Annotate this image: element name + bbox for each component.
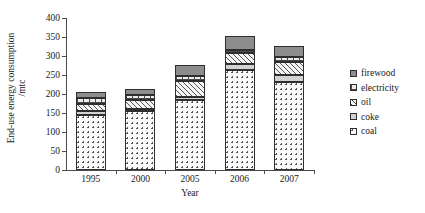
legend-swatch-firewood-icon xyxy=(350,70,357,77)
bar-segment-firewood[interactable] xyxy=(225,36,255,49)
y-tick-label: 150 xyxy=(46,108,60,118)
chart-figure: End-use energy consumption /mtc 05010015… xyxy=(0,0,425,213)
bar-segment-coke[interactable] xyxy=(76,111,106,115)
y-tick-label: 200 xyxy=(46,89,60,99)
bar-segment-oil[interactable] xyxy=(225,53,255,64)
bar-segment-electricity[interactable] xyxy=(274,57,304,62)
bar-segment-firewood[interactable] xyxy=(274,46,304,57)
y-tick-label: 400 xyxy=(46,13,60,23)
y-tick-mark xyxy=(62,18,66,19)
x-tick-label: 2006 xyxy=(230,174,249,185)
bar-segment-firewood[interactable] xyxy=(125,89,155,95)
bar-segment-coke[interactable] xyxy=(175,97,205,100)
y-tick-label: 250 xyxy=(46,70,60,80)
bar-group[interactable] xyxy=(225,36,255,170)
bar-segment-oil[interactable] xyxy=(125,100,155,110)
y-tick-label: 50 xyxy=(51,146,61,156)
x-axis-label: Year xyxy=(66,188,314,199)
legend-swatch-coal-icon xyxy=(350,128,357,135)
y-tick-mark xyxy=(62,37,66,38)
x-tick-label: 2007 xyxy=(280,174,299,185)
bar-group[interactable] xyxy=(125,89,155,170)
legend-label: electricity xyxy=(361,83,399,93)
legend-label: firewood xyxy=(361,68,395,78)
y-axis-label: End-use energy consumption /mtc xyxy=(0,0,34,176)
legend-label: oil xyxy=(361,97,371,107)
y-tick-label: 0 xyxy=(55,165,60,175)
x-tick-label: 2000 xyxy=(131,174,150,185)
legend-label: coal xyxy=(361,126,377,136)
bar-segment-electricity[interactable] xyxy=(225,50,255,53)
bar-group[interactable] xyxy=(274,46,304,170)
legend-item-firewood[interactable]: firewood xyxy=(350,66,425,81)
legend-item-oil[interactable]: oil xyxy=(350,95,425,110)
y-tick-label: 100 xyxy=(46,127,60,137)
legend-item-coal[interactable]: coal xyxy=(350,124,425,139)
y-tick-label: 300 xyxy=(46,51,60,61)
y-tick-mark xyxy=(62,113,66,114)
bar-segment-electricity[interactable] xyxy=(125,95,155,100)
bar-segment-coke[interactable] xyxy=(125,109,155,111)
x-tick-mark xyxy=(314,170,315,174)
x-tick-label: 2005 xyxy=(181,174,200,185)
y-tick-mark xyxy=(62,170,66,171)
y-axis-tick-labels: 050100150200250300350400 xyxy=(34,14,64,172)
y-tick-mark xyxy=(62,75,66,76)
bar-segment-oil[interactable] xyxy=(76,104,106,112)
bar-segment-coke[interactable] xyxy=(274,75,304,82)
bar-segment-coal[interactable] xyxy=(274,82,304,170)
legend-label: coke xyxy=(361,112,379,122)
bar-segment-coal[interactable] xyxy=(175,100,205,170)
bar-group[interactable] xyxy=(76,92,106,170)
y-tick-mark xyxy=(62,94,66,95)
chart-legend: firewoodelectricityoilcokecoal xyxy=(350,66,425,139)
legend-item-coke[interactable]: coke xyxy=(350,110,425,125)
y-tick-mark xyxy=(62,56,66,57)
legend-swatch-oil-icon xyxy=(350,99,357,106)
y-axis-label-line2: /mtc xyxy=(17,33,28,144)
bar-segment-oil[interactable] xyxy=(274,62,304,75)
bar-segment-firewood[interactable] xyxy=(175,65,205,76)
y-tick-label: 350 xyxy=(46,32,60,42)
bar-segment-firewood[interactable] xyxy=(76,92,106,98)
x-axis-line xyxy=(66,170,314,171)
legend-swatch-coke-icon xyxy=(350,113,357,120)
plot-area xyxy=(66,18,314,170)
bar-series-container xyxy=(66,18,314,170)
y-tick-mark xyxy=(62,132,66,133)
bar-segment-oil[interactable] xyxy=(175,81,205,96)
bar-segment-coke[interactable] xyxy=(225,64,255,70)
bar-group[interactable] xyxy=(175,65,205,170)
bar-segment-coal[interactable] xyxy=(225,70,255,170)
x-tick-label: 1995 xyxy=(81,174,100,185)
x-axis-tick-labels: 19952000200520062007 xyxy=(66,174,314,188)
legend-item-electricity[interactable]: electricity xyxy=(350,81,425,96)
legend-swatch-electricity-icon xyxy=(350,84,357,91)
bar-segment-coal[interactable] xyxy=(76,115,106,170)
y-tick-mark xyxy=(62,151,66,152)
bar-segment-coal[interactable] xyxy=(125,111,155,170)
y-axis-label-line1: End-use energy consumption xyxy=(6,33,17,144)
bar-segment-electricity[interactable] xyxy=(76,98,106,104)
bar-segment-electricity[interactable] xyxy=(175,76,205,81)
